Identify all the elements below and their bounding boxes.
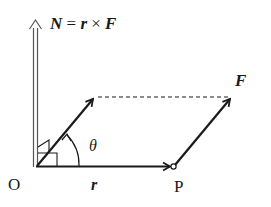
label-point-P: P (174, 177, 183, 196)
label-theta: θ (89, 137, 97, 154)
symbol-F: F (104, 14, 117, 33)
equation-label: N = r × F (49, 14, 117, 33)
vector-F-copy-arrow (37, 99, 93, 166)
torque-diagram: N = r × F F θ O r P (0, 0, 271, 207)
torque-vector-N (30, 20, 42, 167)
equals-sign: = (62, 14, 80, 33)
label-F: F (234, 71, 247, 90)
label-r: r (91, 176, 98, 193)
vector-F-arrow (175, 99, 230, 165)
point-P-marker (171, 164, 176, 169)
symbol-N: N (49, 14, 63, 33)
cross-product-sign: × (87, 14, 105, 33)
label-origin-O: O (8, 175, 20, 194)
hollow-arrowhead-icon (30, 20, 42, 29)
angle-arc (67, 135, 79, 166)
